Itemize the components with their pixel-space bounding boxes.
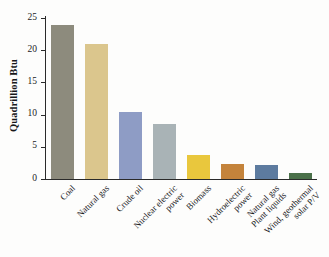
y-tick-label: 15 xyxy=(15,77,37,87)
x-tick-label-line: Biomass xyxy=(184,183,213,212)
y-tick-label: 10 xyxy=(15,109,37,119)
bar-chart-figure: Quadrillion Btu 0510152025 CoalNatural g… xyxy=(0,0,329,257)
plot-area xyxy=(45,18,317,179)
y-tick-label: 20 xyxy=(15,45,37,55)
x-axis-line xyxy=(45,179,317,180)
bar xyxy=(187,155,210,179)
bar xyxy=(255,165,278,179)
y-tick-label: 5 xyxy=(15,141,37,151)
bar xyxy=(51,25,74,179)
y-tick-label: 0 xyxy=(15,174,37,184)
y-tick-mark xyxy=(41,179,45,180)
x-tick-label-line: Coal xyxy=(58,183,77,202)
bar xyxy=(85,44,108,179)
bar xyxy=(289,173,312,179)
y-tick-label: 25 xyxy=(15,13,37,23)
x-tick-label-line: Crude oil xyxy=(114,183,145,214)
bar xyxy=(153,124,176,179)
bar xyxy=(119,112,142,179)
bar xyxy=(221,164,244,179)
